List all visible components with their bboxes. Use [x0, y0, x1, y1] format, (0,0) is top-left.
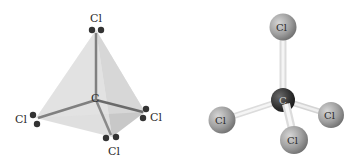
label-cl-bottom: Cl: [108, 145, 120, 158]
tetrahedron-model: Cl C Cl Cl Cl: [15, 12, 162, 158]
label-cl-top: Cl: [90, 12, 102, 25]
lone-pair-left: [30, 112, 40, 127]
label-cl-left: Cl: [15, 113, 27, 126]
label-c-center: C: [91, 92, 99, 105]
label-ball-cl-bottom: Cl: [287, 135, 298, 146]
label-cl-right: Cl: [150, 111, 162, 124]
ball-and-stick-model: Cl C Cl Cl Cl: [209, 14, 345, 155]
label-ball-cl-left: Cl: [215, 115, 226, 126]
ccl4-diagram: Cl C Cl Cl Cl Cl C Cl Cl Cl: [0, 0, 358, 163]
label-ball-cl-right: Cl: [324, 110, 335, 121]
label-ball-cl-top: Cl: [276, 22, 287, 33]
label-ball-c: C: [279, 95, 287, 106]
